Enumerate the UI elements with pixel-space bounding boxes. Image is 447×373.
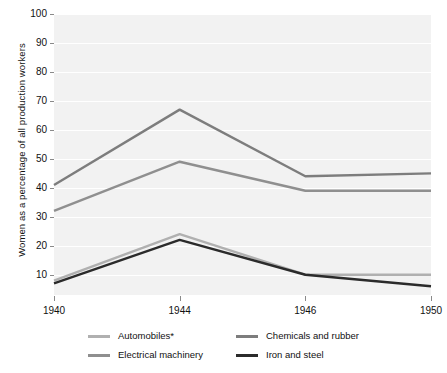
series-lines <box>54 14 431 295</box>
y-tick-mark <box>50 130 54 131</box>
y-tick-label: 20 <box>1 241 47 251</box>
legend-item-iron-and-steel[interactable]: Iron and steel <box>236 347 324 363</box>
series-line <box>54 240 431 286</box>
x-tick-mark <box>54 296 55 301</box>
x-tick-label: 1946 <box>294 306 316 316</box>
legend-swatch-icon <box>88 354 110 357</box>
legend-label: Automobiles* <box>118 331 174 341</box>
legend-item-chemicals-and-rubber[interactable]: Chemicals and rubber <box>236 328 359 344</box>
y-tick-label: 90 <box>1 38 47 48</box>
y-tick-label: 100 <box>1 9 47 19</box>
line-chart-figure: Women as a percentage of all production … <box>0 0 447 373</box>
series-line <box>54 110 431 185</box>
y-tick-mark <box>50 14 54 15</box>
x-tick-mark <box>305 296 306 301</box>
y-tick-mark <box>50 275 54 276</box>
legend-item-automobiles[interactable]: Automobiles* <box>88 328 174 344</box>
x-tick-label: 1940 <box>43 306 65 316</box>
series-line <box>54 162 431 211</box>
y-tick-label: 80 <box>1 67 47 77</box>
chart-legend: Automobiles* Chemicals and rubber Electr… <box>88 328 418 368</box>
legend-swatch-icon <box>88 335 110 338</box>
legend-item-electrical-machinery[interactable]: Electrical machinery <box>88 347 203 363</box>
x-tick-label: 1944 <box>169 306 191 316</box>
x-tick-mark <box>431 296 432 301</box>
y-tick-label: 70 <box>1 96 47 106</box>
y-tick-mark <box>50 246 54 247</box>
plot-area <box>54 14 431 295</box>
legend-label: Chemicals and rubber <box>266 331 359 341</box>
legend-swatch-icon <box>236 335 258 338</box>
y-tick-mark <box>50 188 54 189</box>
y-tick-label: 50 <box>1 154 47 164</box>
y-tick-label: 10 <box>1 270 47 280</box>
y-tick-label: 30 <box>1 212 47 222</box>
y-tick-mark <box>50 217 54 218</box>
y-tick-mark <box>50 43 54 44</box>
y-tick-mark <box>50 72 54 73</box>
legend-label: Electrical machinery <box>118 350 203 360</box>
y-tick-label: 60 <box>1 125 47 135</box>
y-tick-mark <box>50 101 54 102</box>
x-tick-mark <box>180 296 181 301</box>
y-tick-label: 40 <box>1 183 47 193</box>
legend-swatch-icon <box>236 354 258 357</box>
legend-label: Iron and steel <box>266 350 324 360</box>
y-tick-mark <box>50 159 54 160</box>
x-tick-label: 1950 <box>420 306 442 316</box>
